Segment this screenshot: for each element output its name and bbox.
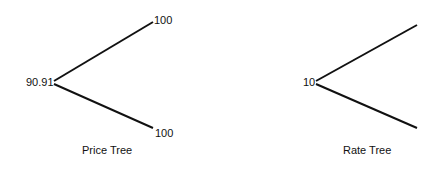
- rate-tree-down-branch: [316, 84, 417, 128]
- rate-tree-up-branch: [316, 25, 417, 81]
- rate-tree-root-value: 10: [303, 76, 315, 88]
- price-tree-up-value: 100: [154, 14, 172, 26]
- price-tree-down-value: 100: [155, 127, 173, 139]
- price-tree-down-branch: [54, 84, 153, 128]
- price-tree-root-value: 90.91: [26, 76, 54, 88]
- price-tree-title: Price Tree: [82, 144, 132, 156]
- rate-tree-title: Rate Tree: [343, 144, 391, 156]
- price-tree-up-branch: [54, 22, 153, 81]
